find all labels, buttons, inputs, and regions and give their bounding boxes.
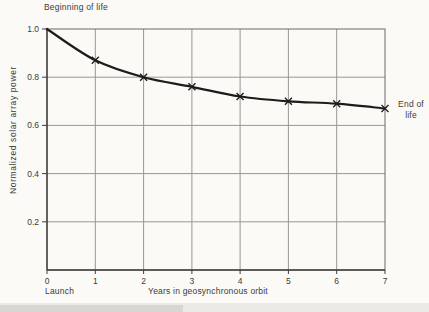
- end-of-life-annotation: End of life: [393, 99, 429, 121]
- svg-text:7: 7: [383, 276, 388, 286]
- x-axis-title: Years in geosynchronous orbit: [38, 286, 378, 296]
- plot-frame: [47, 29, 385, 270]
- svg-text:0: 0: [45, 276, 50, 286]
- svg-text:1: 1: [93, 276, 98, 286]
- x-tick-labels: 01234567: [45, 276, 388, 286]
- tick-marks: [42, 29, 385, 274]
- svg-text:0.6: 0.6: [27, 120, 39, 130]
- svg-text:0.2: 0.2: [27, 217, 39, 227]
- page-edge-strip-dark: [0, 305, 183, 312]
- beginning-of-life-annotation: Beginning of life: [44, 2, 108, 12]
- svg-text:0.4: 0.4: [27, 169, 39, 179]
- svg-text:6: 6: [334, 276, 339, 286]
- power-degradation-curve: [47, 29, 385, 109]
- solar-array-power-degradation-figure: 012345671.00.80.60.40.2 Beginning of lif…: [0, 0, 429, 312]
- axes: [47, 29, 385, 270]
- svg-text:1.0: 1.0: [27, 24, 39, 34]
- svg-text:2: 2: [141, 276, 146, 286]
- chart-plot-area: 012345671.00.80.60.40.2: [0, 0, 429, 312]
- gridlines: [47, 29, 385, 270]
- svg-text:0.8: 0.8: [27, 72, 39, 82]
- y-axis-title: Normalized solar array power: [8, 66, 18, 194]
- svg-text:3: 3: [190, 276, 195, 286]
- y-tick-labels: 1.00.80.60.40.2: [27, 24, 39, 227]
- svg-text:4: 4: [238, 276, 243, 286]
- svg-text:5: 5: [286, 276, 291, 286]
